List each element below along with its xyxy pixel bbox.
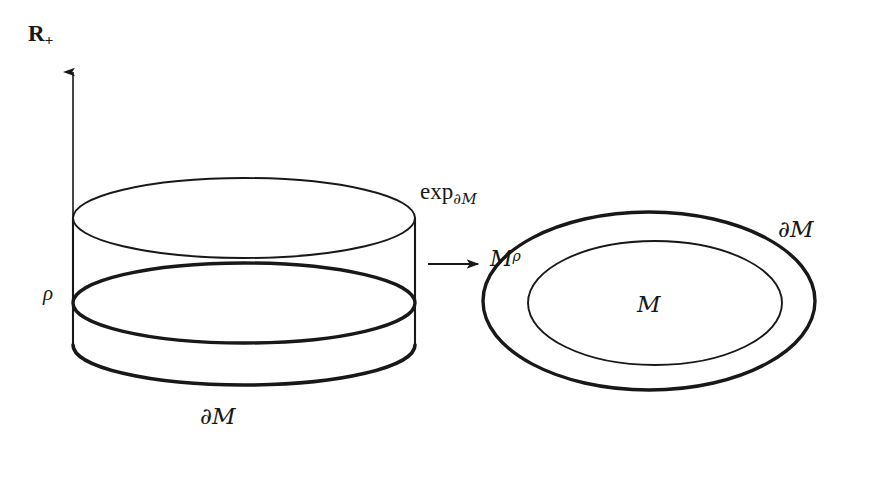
collar-cylinder-group: [73, 178, 415, 385]
axis-label-plus: +: [45, 32, 54, 48]
collar-bottom-rim: [73, 345, 415, 385]
figure-canvas: R+ ρ exp∂M ∂M Mρ M ∂M: [0, 0, 871, 480]
manifold-interior-label: M: [637, 293, 661, 316]
collar-bottom-rim-back: [73, 305, 415, 345]
collar-mid-rim-rho: [73, 263, 415, 343]
exponential-map-label: exp∂M: [420, 180, 477, 207]
axis-label-r-plus: R+: [28, 22, 53, 48]
m-rho-base: M: [490, 246, 513, 271]
collar-boundary-label: ∂M: [200, 405, 235, 428]
m-rho-exponent: ρ: [513, 248, 521, 264]
diagram-svg: [0, 0, 871, 480]
collar-top-rim: [73, 178, 415, 258]
exp-subscript: ∂M: [453, 190, 477, 208]
rho-tick-label: ρ: [43, 283, 53, 304]
collar-image-label: Mρ: [490, 248, 521, 270]
manifold-boundary-label: ∂M: [778, 218, 813, 241]
exp-text: exp: [420, 179, 453, 204]
axis-label-r: R: [28, 21, 45, 46]
